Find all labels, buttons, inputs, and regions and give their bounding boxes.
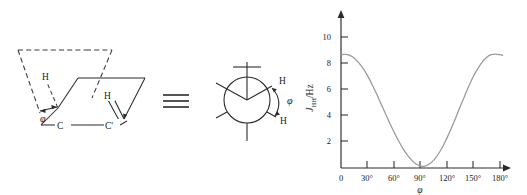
newman-label-h-lower: H	[280, 116, 287, 126]
sawhorse-dashed-frame	[18, 50, 112, 113]
sawhorse-angle-label: φ	[40, 113, 46, 124]
karplus-chart: 2 4 6 8 10 JHH/Hz 0 30° 60° 90° 120° 150…	[305, 10, 511, 195]
solid-upper-right-edge	[124, 78, 145, 119]
newman-label-h-upper: H	[279, 76, 286, 86]
karplus-curve-line	[341, 54, 503, 166]
x-tick-label-30: 30°	[361, 173, 373, 183]
newman-back-bond-lower-right	[267, 112, 276, 117]
chart-axes	[341, 15, 505, 168]
y-tick-label-2: 2	[327, 136, 331, 146]
newman-angle-label: φ	[287, 95, 293, 106]
newman-arc-arrowhead-top	[272, 88, 277, 93]
y-axis-arrowhead	[338, 10, 345, 18]
dashed-bond-h-to-c	[45, 78, 58, 108]
x-axis-ticks	[367, 161, 500, 168]
y-tick-label-10: 10	[323, 32, 332, 42]
x-tick-label-150: 150°	[465, 173, 481, 183]
solid-cprime-to-right	[120, 121, 127, 125]
x-tick-label-90: 90°	[414, 173, 426, 183]
x-axis-title: φ	[417, 185, 422, 195]
y-tick-label-6: 6	[327, 84, 331, 94]
solid-upper-left-edge	[58, 78, 78, 108]
sawhorse-label-h-back: H	[104, 91, 111, 101]
y-axis-title: JHH/Hz	[305, 84, 317, 111]
newman-front-bond-upper-right	[247, 86, 272, 100]
newman-projection: H H φ	[216, 62, 293, 141]
dihedral-arrowhead-right	[51, 105, 57, 109]
equivalence-symbol	[163, 95, 189, 107]
y-axis-title-unit: /Hz	[305, 84, 315, 98]
newman-front-bond-lower-left	[216, 83, 247, 100]
figure-root: H H C C' φ	[0, 0, 527, 195]
sawhorse-label-carbon-back: C'	[105, 121, 113, 131]
x-axis-arrowhead	[503, 165, 511, 172]
y-axis-ticks	[341, 37, 348, 141]
y-tick-label-4: 4	[327, 110, 332, 120]
solid-bond-h2-to-cprime	[108, 100, 120, 122]
sawhorse-projection: H H C C' φ	[18, 50, 145, 131]
y-axis-title-group: JHH/Hz	[305, 84, 317, 111]
x-tick-label-60: 60°	[388, 173, 400, 183]
newman-arc-path	[272, 88, 279, 116]
x-tick-label-120: 120°	[439, 173, 455, 183]
y-tick-label-8: 8	[327, 58, 331, 68]
y-axis-title-sub: HH	[310, 98, 317, 108]
sawhorse-label-carbon-front: C	[57, 121, 63, 131]
x-tick-label-0: 0	[339, 173, 343, 183]
newman-back-bonds	[216, 112, 276, 141]
sawhorse-label-h-front: H	[42, 72, 49, 82]
sawhorse-solid-frame	[41, 78, 145, 125]
newman-back-bond-lower-left	[216, 112, 227, 118]
figure-svg: H H C C' φ	[0, 0, 527, 195]
sawhorse-dashed-bonds	[45, 78, 58, 108]
newman-dihedral-arc	[272, 88, 280, 116]
x-tick-label-180: 180°	[492, 173, 508, 183]
dashed-left-edge	[18, 50, 40, 113]
